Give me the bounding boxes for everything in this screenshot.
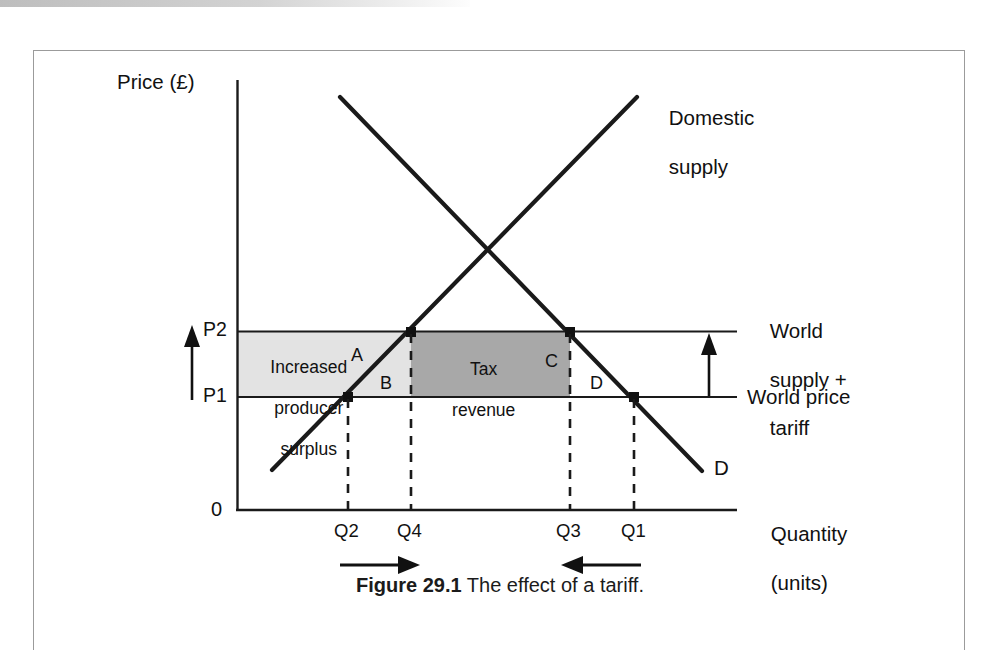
- tax-revenue-label: Tax revenue: [418, 338, 530, 441]
- price-label-p1: P1: [203, 384, 227, 407]
- quantity-tick-q1: Q1: [621, 520, 646, 542]
- increased-producer-surplus-label: Increased producer surplus: [245, 336, 353, 480]
- x-axis-label: Quantity (units): [748, 498, 847, 619]
- area-a-label: A: [351, 345, 363, 366]
- y-axis-label: Price (£): [117, 70, 194, 94]
- producer-surplus-line2: producer: [274, 398, 343, 418]
- area-d-label: D: [590, 373, 603, 394]
- producer-surplus-line3: surplus: [281, 439, 337, 459]
- origin-label: 0: [211, 498, 222, 522]
- domestic-supply-label: Domestic supply: [646, 82, 754, 203]
- quantity-tick-q3: Q3: [556, 520, 581, 542]
- area-b-label: B: [380, 373, 392, 394]
- world-supply-tariff-line1: World: [770, 319, 823, 342]
- quantity-tick-q2: Q2: [334, 520, 359, 542]
- figure-caption-text: The effect of a tariff.: [467, 574, 644, 596]
- world-price-label: World price: [747, 385, 850, 409]
- tax-revenue-line2: revenue: [452, 400, 515, 420]
- demand-curve-label: D: [714, 456, 729, 480]
- area-c-label: C: [545, 351, 558, 372]
- world-supply-tariff-label: World supply + tariff: [747, 295, 847, 464]
- x-axis-label-line1: Quantity: [771, 522, 847, 545]
- domestic-supply-label-line1: Domestic: [669, 106, 754, 129]
- world-supply-tariff-line3: tariff: [770, 416, 810, 439]
- price-label-p2: P2: [203, 318, 227, 341]
- domestic-supply-label-line2: supply: [669, 155, 728, 178]
- figure-caption: Figure 29.1 The effect of a tariff.: [0, 574, 1000, 597]
- scan-artifact: [0, 0, 470, 7]
- producer-surplus-line1: Increased: [270, 357, 347, 377]
- quantity-tick-q4: Q4: [397, 520, 422, 542]
- tax-revenue-line1: Tax: [470, 359, 497, 379]
- figure-caption-label: Figure 29.1: [356, 574, 462, 596]
